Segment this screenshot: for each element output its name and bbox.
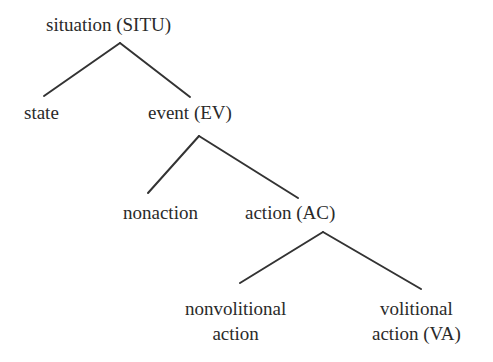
edge-situation-state (44, 43, 120, 96)
edge-action-nonvolitional (240, 232, 323, 283)
node-nonvolitional-action: nonvolitional action (185, 296, 286, 346)
node-situation: situation (SITU) (46, 12, 171, 37)
node-volitional-line1: volitional (372, 296, 461, 321)
node-event: event (EV) (148, 100, 232, 125)
node-state: state (24, 100, 59, 125)
node-nonaction: nonaction (123, 200, 198, 225)
edge-event-nonaction (148, 136, 199, 193)
edge-action-volitional (323, 232, 421, 289)
node-volitional-line2: action (VA) (372, 321, 461, 346)
node-volitional-action: volitional action (VA) (372, 296, 461, 346)
node-action: action (AC) (245, 200, 335, 225)
node-nonvolitional-line2: action (185, 321, 286, 346)
edge-situation-event (120, 43, 190, 97)
edge-event-action (199, 136, 298, 198)
node-nonvolitional-line1: nonvolitional (185, 296, 286, 321)
